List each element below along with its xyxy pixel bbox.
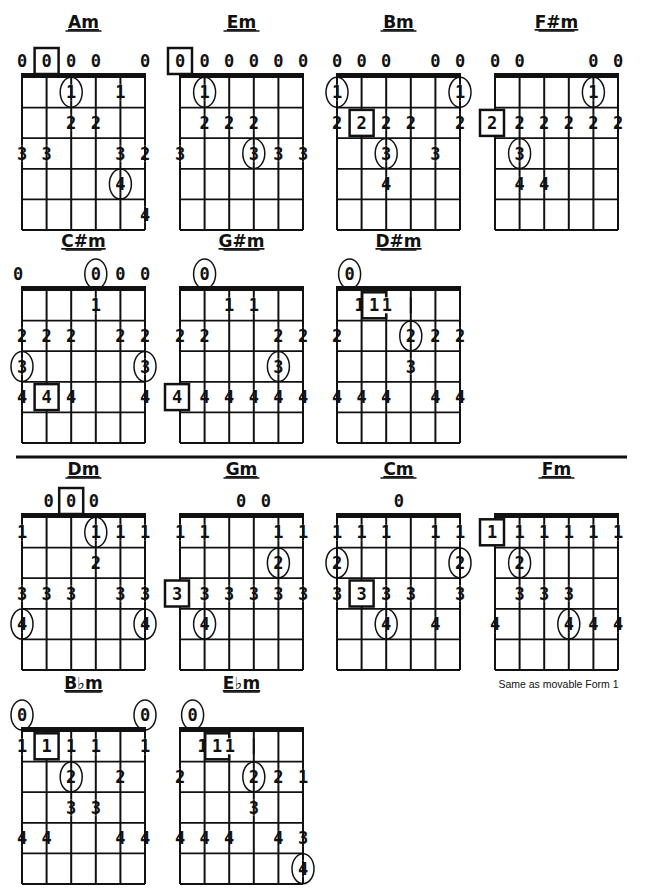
finger-number: 0 xyxy=(224,51,234,71)
finger-number: 4 xyxy=(514,174,524,194)
finger-number: 2 xyxy=(140,326,150,346)
finger-number: 0 xyxy=(613,51,623,71)
finger-number: 1 xyxy=(430,522,440,542)
finger-number: 1 xyxy=(41,736,51,756)
root-note-mark: 1 xyxy=(35,733,59,759)
nut xyxy=(336,73,461,78)
finger-number: 1 xyxy=(225,736,235,756)
finger-number: 3 xyxy=(172,584,182,604)
finger-number: 1 xyxy=(224,295,234,315)
finger-mark: 4 xyxy=(224,828,234,848)
finger-number: 0 xyxy=(91,51,101,71)
finger-number: 4 xyxy=(588,614,598,634)
finger-mark: 1 xyxy=(298,522,308,542)
finger-mark: 2 xyxy=(140,326,150,346)
finger-number: 3 xyxy=(17,144,27,164)
finger-number: 3 xyxy=(564,584,574,604)
finger-mark: 2 xyxy=(66,326,76,346)
finger-number: 4 xyxy=(356,387,366,407)
finger-mark: 2 xyxy=(175,326,185,346)
finger-mark: 2 xyxy=(17,326,27,346)
finger-mark: 3 xyxy=(273,584,283,604)
finger-number: 3 xyxy=(66,798,76,818)
finger-number: 3 xyxy=(298,584,308,604)
finger-mark: 4 xyxy=(381,387,391,407)
chord-title: E♭m xyxy=(223,673,260,693)
finger-number: 2 xyxy=(356,113,366,133)
finger-mark: 0 xyxy=(140,264,150,284)
chord-diagram: C#m0000122222334444 xyxy=(11,231,156,443)
finger-number: 2 xyxy=(41,326,51,346)
finger-number: 1 xyxy=(199,522,209,542)
chord-title: B♭m xyxy=(64,673,103,693)
chord-diagram: Em00000012223333 xyxy=(168,12,308,230)
finger-number: 2 xyxy=(140,144,150,164)
finger-number: 1 xyxy=(588,522,598,542)
finger-mark: 1 xyxy=(140,522,150,542)
finger-number: 2 xyxy=(175,326,185,346)
finger-number: 3 xyxy=(249,584,259,604)
finger-number: 3 xyxy=(381,584,391,604)
finger-mark: 3 xyxy=(91,798,101,818)
finger-mark: 1 xyxy=(175,522,185,542)
finger-mark: 2 xyxy=(539,113,549,133)
finger-mark: 0 xyxy=(298,51,308,71)
circled-finger-mark: 0 xyxy=(339,259,361,289)
finger-mark: 4 xyxy=(17,828,27,848)
finger-number: 2 xyxy=(91,553,101,573)
finger-mark: 3 xyxy=(66,584,76,604)
finger-number: 0 xyxy=(490,51,500,71)
fretboard-grid xyxy=(22,517,145,670)
finger-number: 3 xyxy=(224,584,234,604)
finger-mark: 3 xyxy=(175,144,185,164)
finger-number: 2 xyxy=(613,113,623,133)
finger-number: 3 xyxy=(140,584,150,604)
finger-number: 1 xyxy=(17,522,27,542)
finger-number: 2 xyxy=(66,767,76,787)
finger-number: 3 xyxy=(17,584,27,604)
finger-mark: 1 xyxy=(17,522,27,542)
finger-mark: 0 xyxy=(249,51,259,71)
finger-mark: 4 xyxy=(140,387,150,407)
finger-number: 4 xyxy=(381,614,391,634)
finger-number: 0 xyxy=(430,51,440,71)
finger-mark: 2 xyxy=(455,326,465,346)
finger-number: 4 xyxy=(224,828,234,848)
finger-number: 1 xyxy=(115,522,125,542)
finger-mark: 3 xyxy=(430,144,440,164)
finger-number: 3 xyxy=(17,357,27,377)
chord-title: Gm xyxy=(226,459,258,479)
finger-number: 4 xyxy=(273,828,283,848)
finger-number: 2 xyxy=(249,767,259,787)
nut xyxy=(336,513,461,518)
finger-number: 1 xyxy=(298,522,308,542)
finger-mark: 3 xyxy=(332,584,342,604)
finger-mark: 4 xyxy=(613,614,623,634)
finger-mark: 3 xyxy=(115,584,125,604)
finger-number: 4 xyxy=(140,828,150,848)
finger-number: 2 xyxy=(487,113,497,133)
finger-number: 0 xyxy=(140,264,150,284)
finger-number: 4 xyxy=(17,614,27,634)
nut xyxy=(179,513,304,518)
finger-mark: 3 xyxy=(406,584,416,604)
finger-number: 4 xyxy=(140,387,150,407)
finger-mark: 2 xyxy=(115,326,125,346)
finger-mark: 0 xyxy=(394,491,404,511)
finger-number: 3 xyxy=(273,144,283,164)
chord-diagram: Cm011111223333344 xyxy=(326,459,471,670)
finger-number: 1 xyxy=(66,82,76,102)
finger-number: 4 xyxy=(381,387,391,407)
finger-mark: 1 xyxy=(430,522,440,542)
finger-number: 1 xyxy=(91,295,101,315)
finger-number: 4 xyxy=(115,174,125,194)
finger-mark: 3 xyxy=(249,584,259,604)
finger-number: 1 xyxy=(455,82,465,102)
finger-number: 1 xyxy=(140,522,150,542)
finger-mark: 2 xyxy=(613,113,623,133)
finger-mark: 4 xyxy=(514,174,524,194)
finger-mark: 3 xyxy=(298,828,308,848)
finger-number: 0 xyxy=(394,491,404,511)
finger-mark: 1 xyxy=(249,295,259,315)
chord-diagrams: Am000001122333244Em00000012223333Bm00000… xyxy=(11,12,623,884)
